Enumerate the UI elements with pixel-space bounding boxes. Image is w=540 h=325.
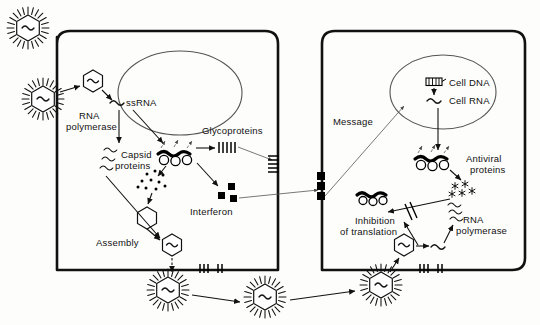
free-virion-transit [244,276,286,318]
virology-diagram: ssRNA RNA polymerase Capsid proteins Ass… [0,0,540,325]
diagram-canvas: ssRNA RNA polymerase Capsid proteins Ass… [0,0,540,325]
antiviral-proteins [449,181,475,198]
empty-capsid [138,207,157,229]
viral-polymerase-waves [448,203,463,221]
infected-cell [57,31,278,270]
label-capsid-line1: Capsid [121,149,152,160]
infecting-capsid-right [395,234,414,256]
label-message: Message [333,116,373,127]
label-cell-rna: Cell RNA [449,95,490,106]
arrow-spread-1 [192,295,240,302]
arrow-glycoprotein-to-membrane [238,147,272,160]
viral-rna-right [431,245,445,250]
uncoated-capsid [84,70,103,92]
interferon-receptor [317,172,325,200]
label-rna-polymerase-right-line1: RNA [463,214,484,225]
label-antiviral-line2: proteins [470,164,505,175]
assembled-virion [163,234,182,256]
capsid-protein-dots [137,170,167,191]
arrow-to-interferon [197,163,218,186]
label-assembly: Assembly [96,237,139,248]
block-slash-marks [405,202,417,220]
membrane-spikes-right [420,264,442,273]
cell-rna-strand [427,99,441,104]
arrow-viral-rna-to-polymerase [444,225,453,243]
blocked-ribosome [357,193,387,206]
arrow-to-antiviral [450,170,461,180]
cell-dna-glyph [426,78,446,86]
arrow-spread-2 [290,291,355,300]
label-inhibition-line1: Inhibition [355,215,395,226]
budding-virion [147,269,189,311]
attaching-virion [22,78,64,120]
label-rna-polymerase-left-line2: polymerase [66,121,117,132]
ssrna-strand [110,101,124,106]
entering-virion-right [360,264,402,306]
label-rna-polymerase-left-line1: RNA [79,110,100,121]
arrow-entry [60,86,80,92]
label-rna-polymerase-right-line2: polymerase [456,225,507,236]
responding-cell-ribosome [415,145,449,171]
membrane-spikes-left-bottom [200,264,222,273]
label-capsid-line2: proteins [115,160,150,171]
arrow-assembly-2 [106,176,160,238]
label-inhibition-line2: of translation [340,226,397,237]
interferon-molecules [218,183,237,202]
arrow-uncoating [102,90,112,100]
label-antiviral-line1: Antiviral [466,153,502,164]
label-glycoproteins: Glycoproteins [202,125,263,136]
arrow-antiviral-to-block [388,199,450,212]
infected-cell-ribosome [158,140,192,166]
glycoprotein-spikes-free [219,142,235,153]
label-cell-dna: Cell DNA [449,77,490,88]
infected-cell-nucleus [118,51,242,135]
label-interferon: Interferon [190,206,233,217]
label-ssrna: ssRNA [126,97,157,108]
arrow-rna-to-ribosome [133,110,163,143]
responding-cell-nucleus [390,55,496,129]
arrow-capsid-assembly [148,193,152,204]
free-virion-top-left [7,7,49,49]
